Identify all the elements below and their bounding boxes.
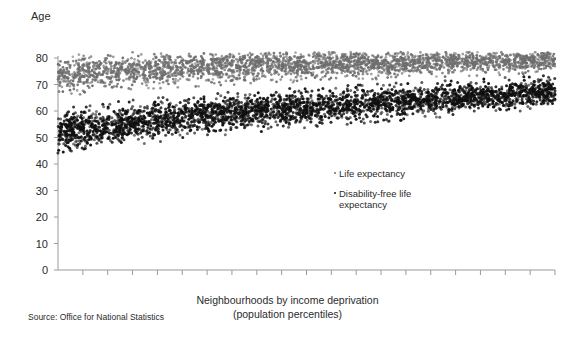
y-axis-tick-label: 80	[22, 52, 48, 64]
x-axis-title-line1: Neighbourhoods by income deprivation	[0, 294, 575, 308]
legend-label-disability-free: Disability-free life expectancy	[339, 188, 411, 210]
legend-dot-grey-icon	[330, 168, 339, 174]
y-axis-tick-label: 60	[22, 105, 48, 117]
y-axis-tick-label: 70	[22, 79, 48, 91]
y-axis-tick-label: 40	[22, 158, 48, 170]
y-axis-tick-label: 0	[22, 264, 48, 276]
y-axis-tick-label: 20	[22, 211, 48, 223]
y-axis-tick-label: 50	[22, 132, 48, 144]
y-axis-tick-label: 10	[22, 238, 48, 250]
y-axis-tick-label: 30	[22, 185, 48, 197]
chart-figure: Age 01020304050607080 Life expectancy Di…	[0, 0, 575, 356]
legend-item-life-expectancy: Life expectancy	[330, 168, 411, 179]
chart-legend: Life expectancy Disability-free life exp…	[330, 168, 411, 219]
legend-dot-black-icon	[330, 188, 339, 194]
legend-item-disability-free: Disability-free life expectancy	[330, 188, 411, 210]
legend-label-life-expectancy: Life expectancy	[339, 168, 405, 179]
source-note: Source: Office for National Statistics	[28, 312, 164, 322]
